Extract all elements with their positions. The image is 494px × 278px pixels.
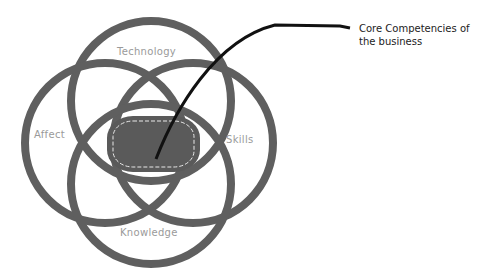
label-knowledge: Knowledge	[120, 227, 178, 238]
label-affect: Affect	[34, 129, 65, 140]
callout-text: Core Competencies of the business	[359, 22, 489, 48]
callout-line-2: the business	[359, 35, 489, 48]
label-technology: Technology	[116, 46, 176, 57]
label-skills: Skills	[226, 134, 253, 145]
core-competency-region	[107, 116, 200, 172]
callout-line-1: Core Competencies of	[359, 22, 489, 35]
